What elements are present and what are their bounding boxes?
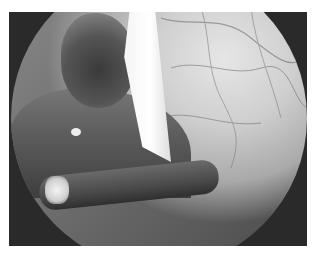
scope-view-circle bbox=[11, 12, 307, 246]
specular-highlight bbox=[71, 128, 81, 136]
nodular-lesion bbox=[61, 13, 136, 108]
endoscopic-image bbox=[9, 12, 307, 246]
instrument-tip-reflection bbox=[45, 176, 69, 204]
